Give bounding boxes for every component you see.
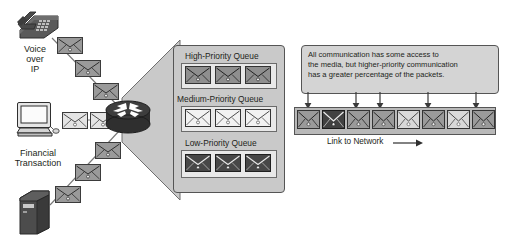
packet-envelope-voip-2 bbox=[75, 60, 101, 77]
financial-label-line-1: Financial bbox=[0, 148, 76, 159]
packet-envelope-server-1 bbox=[55, 186, 81, 203]
priority-queuing-diagram: Voice over IP Financial Transaction bbox=[0, 0, 506, 243]
queue-packet-high-3 bbox=[245, 66, 271, 84]
voip-label-line-1: Voice bbox=[8, 44, 62, 55]
link-packet-3 bbox=[347, 110, 370, 129]
medium-priority-queue-title: Medium-Priority Queue bbox=[177, 94, 263, 104]
packet-envelope-voip-1 bbox=[57, 37, 83, 54]
router-icon bbox=[105, 98, 151, 138]
packet-envelope-server-2 bbox=[75, 164, 101, 181]
link-packet-7 bbox=[447, 110, 470, 129]
callout-line-1: All communication has some access to bbox=[308, 50, 439, 60]
link-packet-2 bbox=[322, 110, 345, 129]
queue-packet-low-3 bbox=[245, 154, 271, 172]
desktop-computer-icon bbox=[14, 100, 64, 140]
queue-packet-medium-1 bbox=[185, 109, 211, 127]
link-packet-8 bbox=[472, 110, 495, 129]
voip-label-line-3: IP bbox=[8, 64, 62, 75]
link-direction-arrow-icon bbox=[393, 138, 425, 148]
link-packet-4 bbox=[372, 110, 395, 129]
queue-packet-high-1 bbox=[185, 66, 211, 84]
link-packet-1 bbox=[297, 110, 320, 129]
low-priority-queue-title: Low-Priority Queue bbox=[185, 138, 257, 148]
queue-packet-high-2 bbox=[215, 66, 241, 84]
desk-phone-icon bbox=[14, 8, 62, 42]
link-packet-6 bbox=[422, 110, 445, 129]
callout-line-2: the media, but higher-priority communica… bbox=[308, 60, 458, 70]
server-tower-icon bbox=[18, 188, 52, 236]
voip-label-line-2: over bbox=[8, 54, 62, 65]
packet-envelope-server-3 bbox=[95, 142, 121, 159]
packet-envelope-financial-1 bbox=[62, 112, 88, 129]
high-priority-queue-title: High-Priority Queue bbox=[185, 51, 259, 61]
queue-packet-medium-2 bbox=[215, 109, 241, 127]
link-packet-5 bbox=[397, 110, 420, 129]
queue-packet-low-2 bbox=[215, 154, 241, 172]
link-to-network-label: Link to Network bbox=[327, 137, 383, 146]
queue-packet-low-1 bbox=[185, 154, 211, 172]
financial-label-line-2: Transaction bbox=[0, 158, 76, 169]
queue-packet-medium-3 bbox=[245, 109, 271, 127]
callout-line-3: has a greater percentage of the packets. bbox=[308, 70, 444, 80]
